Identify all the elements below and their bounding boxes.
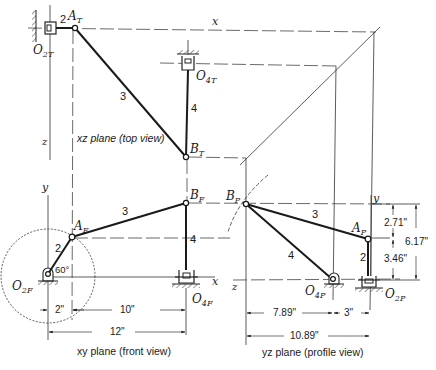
joint-af bbox=[69, 234, 75, 240]
link4-label-top: 4 bbox=[191, 102, 197, 114]
profile-view-caption: yz plane (profile view) bbox=[262, 346, 364, 358]
joint-o2f bbox=[46, 272, 51, 277]
joint-at bbox=[72, 25, 77, 30]
joint-o4p bbox=[331, 277, 336, 282]
link2-label-profile: 2 bbox=[360, 251, 366, 263]
joint-bf bbox=[183, 200, 188, 205]
bp-label: BP bbox=[225, 189, 241, 205]
link3-profile bbox=[246, 204, 368, 239]
dim-2-71in: 2.71" bbox=[384, 217, 407, 228]
link4-top bbox=[186, 70, 188, 157]
dim-2in: 2" bbox=[55, 304, 65, 315]
link2-label-front: 2 bbox=[55, 242, 61, 254]
at-label: AT bbox=[67, 9, 83, 25]
profile-view: y z 3 4 2 BP AP O4P O2P bbox=[225, 189, 428, 358]
dim-3in: 3" bbox=[344, 307, 354, 318]
dim-3-46in: 3.46" bbox=[384, 253, 407, 264]
crank-angle-label: 60° bbox=[55, 264, 70, 275]
front-y-axis-label: y bbox=[41, 181, 49, 194]
link2-label-top: 2 bbox=[60, 13, 66, 25]
joint-bp bbox=[243, 201, 248, 206]
link3-label-top: 3 bbox=[120, 90, 126, 102]
slider-o2p-icon bbox=[355, 276, 383, 292]
o4t-label: O4T bbox=[196, 69, 217, 85]
link4-profile bbox=[246, 204, 332, 279]
slider-o4t-icon bbox=[177, 50, 199, 70]
link3-label-profile: 3 bbox=[312, 208, 318, 220]
top-z-axis-label: z bbox=[41, 136, 48, 147]
dim-6-17in: 6.17" bbox=[405, 236, 428, 247]
top-view-caption: xz plane (top view) bbox=[76, 132, 165, 144]
link4-label-front: 4 bbox=[190, 233, 196, 245]
dim-10-89in: 10.89" bbox=[290, 330, 319, 341]
o2t-label: O2T bbox=[33, 43, 54, 59]
o4f-label: O4F bbox=[192, 292, 213, 308]
bt-label: BT bbox=[189, 142, 205, 158]
front-view-caption: xy plane (front view) bbox=[77, 345, 171, 357]
profile-z-axis-label: z bbox=[231, 281, 238, 292]
slider-o2t-icon bbox=[32, 10, 73, 42]
front-view: y x 2 60° O2F 3 AF 4 BF O4F bbox=[12, 181, 219, 357]
joint-ap bbox=[365, 236, 371, 242]
profile-y-axis-label: y bbox=[372, 192, 380, 205]
af-label: AF bbox=[73, 219, 89, 235]
o4p-label: O4P bbox=[305, 284, 326, 300]
dim-7-89in: 7.89" bbox=[273, 307, 296, 318]
front-x-axis-label: x bbox=[212, 275, 219, 288]
joint-bt bbox=[183, 154, 188, 159]
dim-12in: 12" bbox=[110, 326, 125, 337]
o2f-label: O2F bbox=[12, 279, 33, 295]
o2p-label: O2P bbox=[385, 287, 406, 303]
top-x-axis-label: x bbox=[212, 15, 219, 28]
top-view: 2 O2T AT 3 O4T 4 BT x z xz plane (top vi… bbox=[32, 9, 219, 160]
link3-label-front: 3 bbox=[122, 205, 128, 217]
bf-label: BF bbox=[189, 188, 205, 204]
slider-o4f-icon bbox=[172, 270, 200, 288]
mechanism-diagram: 2 O2T AT 3 O4T 4 BT x z xz plane (top vi… bbox=[0, 0, 436, 370]
link4-label-profile: 4 bbox=[288, 249, 294, 261]
link3-front bbox=[72, 203, 186, 237]
ap-label: AP bbox=[351, 221, 367, 237]
dim-10in: 10" bbox=[120, 304, 135, 315]
